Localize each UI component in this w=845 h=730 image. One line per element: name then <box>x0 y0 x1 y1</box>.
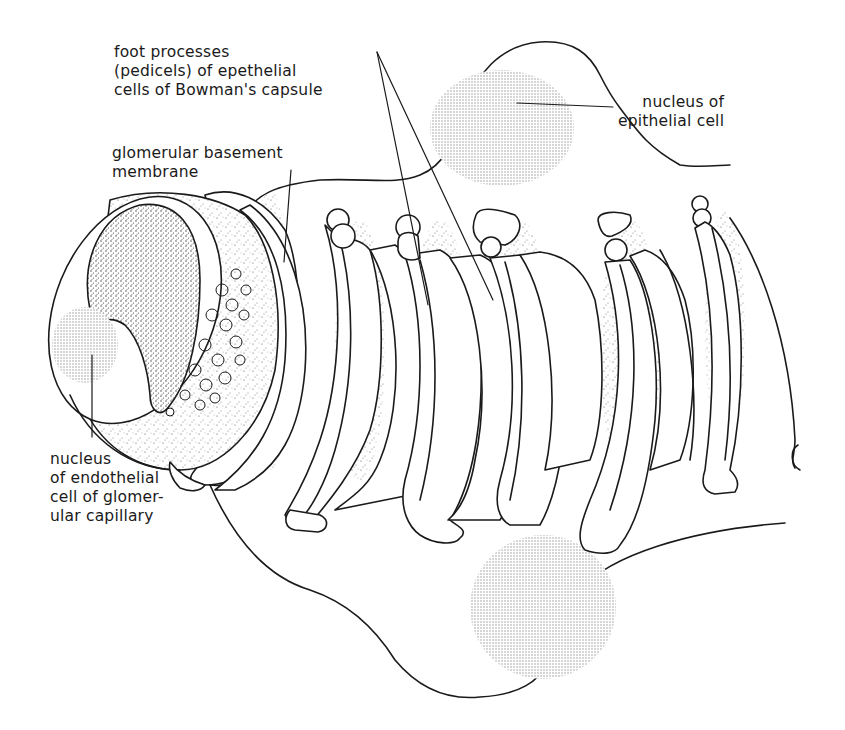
label-endothelial-nucleus: nucleus of endothelial cell of glomer- u… <box>50 450 164 526</box>
label-epithelial-nucleus: nucleus of epithelial cell <box>618 93 724 131</box>
endothelial-nucleus <box>52 307 118 383</box>
label-basement-membrane: glomerular basement membrane <box>112 144 283 182</box>
epithelial-nucleus-top <box>430 70 574 186</box>
label-foot-processes: foot processes (pedicels) of epethelial … <box>114 43 323 100</box>
epithelial-nucleus-bottom <box>470 535 616 679</box>
